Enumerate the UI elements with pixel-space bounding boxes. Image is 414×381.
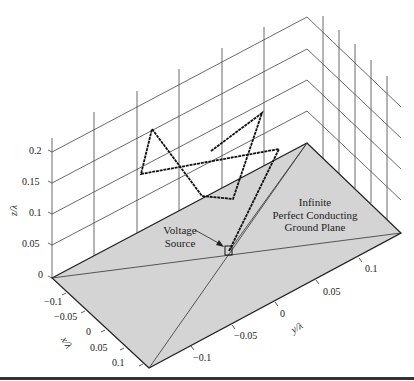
ground-plane-label-line: Infinite	[265, 196, 365, 209]
antenna-3d-plot	[0, 0, 414, 381]
ground-plane-label: Infinite Perfect Conducting Ground Plane	[265, 196, 365, 234]
x-tick-label: 0.1	[112, 358, 125, 368]
bottom-rule	[0, 377, 414, 380]
x-tick-label: 0	[86, 327, 91, 337]
z-tick-label: 0	[38, 270, 43, 280]
y-tick-label: −0.05	[234, 331, 257, 341]
voltage-source-label: Voltage Source	[160, 224, 200, 249]
ground-plane-label-line: Perfect Conducting	[265, 209, 365, 222]
x-tick-label: −0.1	[44, 297, 62, 307]
y-tick-label: 0	[280, 309, 285, 319]
x-tick-label: 0.05	[90, 343, 108, 353]
y-tick-label: 0.1	[365, 264, 378, 274]
y-tick-label: −0.1	[193, 353, 211, 363]
voltage-source-label-line: Source	[160, 237, 200, 250]
x-tick-label: −0.05	[54, 312, 77, 322]
voltage-source-label-line: Voltage	[160, 224, 200, 237]
z-tick-label: 0.2	[29, 146, 42, 156]
z-tick-label: 0.1	[29, 208, 42, 218]
z-tick-label: 0.15	[22, 177, 40, 187]
y-tick-label: 0.05	[323, 287, 341, 297]
ground-plane-label-line: Ground Plane	[265, 221, 365, 234]
z-axis-label: z/λ	[8, 205, 19, 216]
z-tick-label: 0.05	[22, 239, 40, 249]
